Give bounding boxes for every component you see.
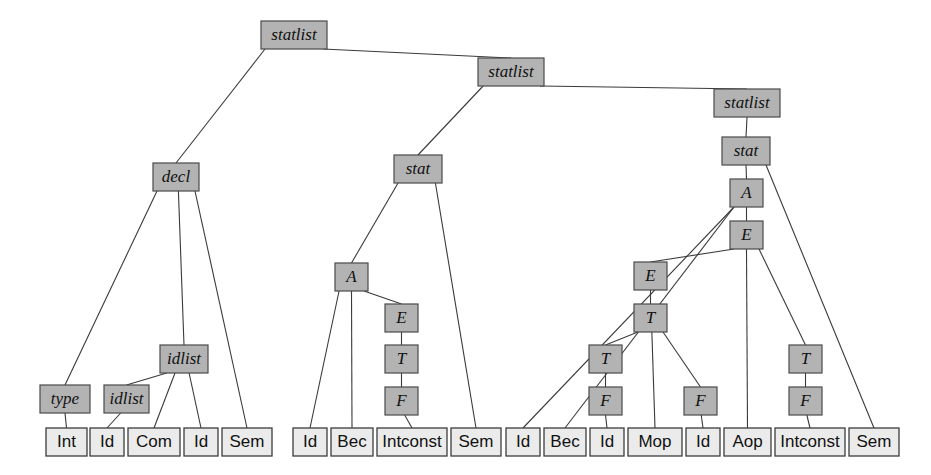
node-label: Aop [732,432,762,451]
node-label: E [644,266,656,285]
nonterminal-node-decl: decl [153,163,199,191]
node-label: statlist [271,25,318,44]
nonterminal-node-idlist: idlist [104,385,149,413]
node-label: idlist [167,349,202,368]
nonterminal-node-t: T [589,345,622,373]
node-label: Id [600,432,614,451]
node-label: decl [162,167,191,186]
node-label: A [740,183,752,202]
tree-edge [405,415,412,428]
node-label: Id [516,432,530,451]
nonterminal-node-statlist: statlist [478,58,544,86]
node-label: Sem [857,432,892,451]
terminal-node-id: Id [590,428,624,456]
nonterminal-node-a: A [335,263,368,291]
tree-edge [65,191,157,385]
tree-edge [747,249,748,428]
tree-edge [364,291,402,304]
node-label: F [599,391,611,410]
node-label: statlist [724,93,771,112]
node-label: statlist [488,62,535,81]
tree-edge [323,49,511,58]
node-label: Sem [459,432,494,451]
node-label: stat [406,159,432,178]
tree-edge [107,413,121,428]
node-label: T [646,308,657,327]
tree-edge [418,86,483,155]
nonterminal-node-f: F [684,387,717,415]
node-label: E [740,225,752,244]
terminal-node-id: Id [184,428,218,456]
nonterminal-node-f: F [789,387,822,415]
node-label: Id [303,432,317,451]
tree-edge [746,165,747,179]
tree-edge [310,291,339,428]
tree-edge [807,415,810,428]
tree-edge [195,191,247,428]
node-label: stat [734,141,760,160]
node-label: Sem [230,432,265,451]
node-label: T [601,349,612,368]
nonterminal-node-t: T [789,345,822,373]
tree-edge [178,191,184,345]
tree-edge [746,117,747,137]
terminal-node-sem: Sem [222,428,272,456]
nonterminal-node-t: T [634,304,667,332]
tree-edge [65,413,67,428]
node-label: F [395,391,407,410]
node-label: Id [100,432,114,451]
terminal-node-sem: Sem [849,428,899,456]
tree-edge [127,373,167,385]
parse-tree-svg: statliststatliststatlistdeclstatstatidli… [0,0,931,475]
nonterminal-node-f: F [385,387,418,415]
terminal-node-mop: Mop [628,428,682,456]
terminal-node-id: Id [90,428,124,456]
tree-edge [154,373,175,428]
terminal-node-com: Com [128,428,180,456]
terminal-node-bec: Bec [544,428,586,456]
tree-edge [759,249,806,345]
tree-edge [352,291,353,428]
terminal-node-id: Id [686,428,720,456]
parse-tree-figure: statliststatliststatlistdeclstatstatidli… [0,0,931,475]
node-label: Intconst [382,432,442,451]
node-label: E [395,308,407,327]
nonterminal-node-e: E [385,304,418,332]
node-label: Id [194,432,208,451]
tree-edge [701,415,703,428]
tree-edge [663,332,701,387]
node-label: Com [136,432,172,451]
terminal-node-sem: Sem [451,428,501,456]
tree-edge [176,49,265,163]
terminal-node-aop: Aop [724,428,771,456]
node-label: F [694,391,706,410]
nonterminal-node-e: E [730,221,763,249]
node-label: F [799,391,811,410]
node-label: A [345,267,357,286]
node-label: idlist [109,389,144,408]
nonterminal-node-stat: stat [722,137,770,165]
tree-edge [652,332,655,428]
node-label: Mop [638,432,671,451]
nonterminal-node-stat: stat [394,155,442,183]
tree-edge [352,183,399,263]
node-label: Intconst [780,432,840,451]
terminal-node-bec: Bec [331,428,373,456]
terminal-node-id: Id [293,428,327,456]
terminal-node-int: Int [46,428,87,456]
tree-edge [189,373,201,428]
node-label: Bec [550,432,580,451]
node-label: Bec [337,432,367,451]
nonterminal-node-t: T [385,345,418,373]
node-label: T [801,349,812,368]
nonterminal-node-statlist: statlist [714,89,780,117]
terminal-node-intconst: Intconst [775,428,845,456]
node-label: Id [696,432,710,451]
node-label: T [397,349,408,368]
nonterminal-node-idlist: idlist [160,345,208,373]
tree-edge [606,415,608,428]
node-label: type [51,389,80,408]
terminal-node-intconst: Intconst [377,428,447,456]
nonterminal-node-type: type [40,385,90,413]
tree-edge [435,183,476,428]
